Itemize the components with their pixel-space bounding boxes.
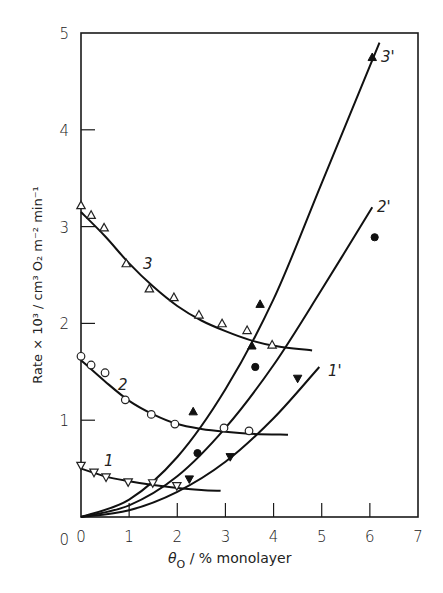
plot-frame xyxy=(81,33,418,517)
y-axis-ticks: 012345 xyxy=(59,25,95,549)
x-tick-label: 1 xyxy=(124,528,134,546)
y-tick-label: 3 xyxy=(59,219,69,237)
data-point-2-open-circle-icon xyxy=(220,424,228,432)
data-point-1-open-down-triangle-icon xyxy=(124,479,132,487)
data-point-2-prime-filled-circle-icon xyxy=(371,234,378,241)
curve-label-1-prime: 1' xyxy=(328,362,342,380)
data-point-3-open-up-triangle-icon xyxy=(87,211,95,219)
data-point-3-open-up-triangle-icon xyxy=(170,293,178,301)
data-point-2-open-circle-icon xyxy=(77,353,85,361)
data-point-2-prime-filled-circle-icon xyxy=(194,450,201,457)
curve-label-2: 2 xyxy=(118,376,128,394)
data-point-2-prime-filled-circle-icon xyxy=(252,363,259,370)
data-point-1-prime-filled-down-triangle-icon xyxy=(293,375,301,383)
data-point-3-open-up-triangle-icon xyxy=(77,201,85,209)
x-tick-label: 2 xyxy=(173,528,183,546)
rate-vs-coverage-chart: 01234567 012345 1 2 3 1' 2' 3' θO / % mo… xyxy=(0,0,443,593)
data-point-2-open-circle-icon xyxy=(87,361,95,369)
y-tick-label: 1 xyxy=(59,412,69,430)
x-tick-label: 5 xyxy=(317,528,327,546)
data-point-3-open-up-triangle-icon xyxy=(243,326,251,334)
fit-curve-3 xyxy=(81,212,312,350)
x-axis-label-sub: O xyxy=(177,558,186,571)
data-point-3-prime-filled-up-triangle-icon xyxy=(189,407,197,415)
curve-label-3-prime: 3' xyxy=(381,48,395,66)
x-tick-label: 6 xyxy=(365,528,375,546)
data-point-3-prime-filled-up-triangle-icon xyxy=(248,341,256,349)
data-point-2-open-circle-icon xyxy=(101,369,109,377)
y-axis-label: Rate × 10³ / cm³ O₂ m⁻² min⁻¹ xyxy=(30,186,45,384)
x-axis-label-rest: / % monolayer xyxy=(185,550,291,566)
x-tick-label: 7 xyxy=(413,528,423,546)
data-point-3-open-up-triangle-icon xyxy=(100,223,108,231)
data-point-1-prime-filled-down-triangle-icon xyxy=(185,476,193,484)
data-point-2-open-circle-icon xyxy=(171,420,179,428)
fit-curves xyxy=(81,43,379,517)
data-point-3-prime-filled-up-triangle-icon xyxy=(256,300,264,308)
x-axis-label: θO / % monolayer xyxy=(168,550,292,571)
fit-curve-2 xyxy=(81,360,288,435)
curve-label-2-prime: 2' xyxy=(377,198,391,216)
y-tick-label: 2 xyxy=(59,315,69,333)
data-point-2-open-circle-icon xyxy=(147,411,155,419)
x-tick-label: 0 xyxy=(76,528,86,546)
x-tick-label: 4 xyxy=(269,528,279,546)
curve-label-1: 1 xyxy=(104,452,114,470)
y-tick-label: 5 xyxy=(59,25,69,43)
fit-curve-3-prime xyxy=(81,43,379,517)
x-tick-label: 3 xyxy=(221,528,231,546)
y-tick-label: 4 xyxy=(59,122,69,140)
data-point-3-open-up-triangle-icon xyxy=(195,310,203,318)
data-point-2-open-circle-icon xyxy=(245,427,253,435)
data-point-2-open-circle-icon xyxy=(121,396,129,404)
y-tick-label: 0 xyxy=(59,531,69,549)
curve-label-3: 3 xyxy=(143,255,153,273)
fit-curve-1-prime xyxy=(81,367,319,517)
data-point-3-open-up-triangle-icon xyxy=(218,319,226,327)
